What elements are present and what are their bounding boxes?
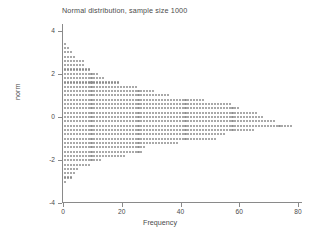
data-dot	[132, 103, 134, 105]
y-tick-label: 0	[39, 113, 55, 120]
data-dot	[117, 142, 119, 144]
data-dot	[196, 116, 198, 118]
data-dot	[267, 120, 269, 122]
data-dot	[158, 138, 160, 140]
data-dot	[149, 103, 151, 105]
data-dot	[76, 68, 78, 70]
data-dot	[205, 125, 207, 127]
data-dot	[114, 112, 116, 114]
data-dot	[132, 146, 134, 148]
data-dot	[64, 73, 66, 75]
data-dot	[111, 142, 113, 144]
data-dot	[114, 90, 116, 92]
data-dot	[82, 90, 84, 92]
data-dot	[123, 99, 125, 101]
data-dot	[85, 86, 87, 88]
data-dot	[120, 99, 122, 101]
data-dot	[220, 116, 222, 118]
data-dot	[102, 86, 104, 88]
data-dot	[76, 77, 78, 79]
data-dot	[231, 107, 233, 109]
data-dot	[149, 138, 151, 140]
data-dot	[70, 159, 72, 161]
data-dot	[64, 125, 66, 127]
data-dot	[67, 90, 69, 92]
data-dot	[111, 125, 113, 127]
data-dot	[211, 138, 213, 140]
data-dot	[176, 138, 178, 140]
data-dot	[90, 107, 92, 109]
data-dot	[82, 94, 84, 96]
data-dot	[211, 129, 213, 131]
data-dot	[143, 116, 145, 118]
data-dot	[120, 86, 122, 88]
data-dot	[161, 138, 163, 140]
data-dot	[111, 155, 113, 157]
data-dot	[73, 125, 75, 127]
data-dot	[170, 103, 172, 105]
data-dot	[79, 125, 81, 127]
data-dot	[190, 133, 192, 135]
data-dot	[164, 129, 166, 131]
data-dot	[158, 129, 160, 131]
data-dot	[111, 138, 113, 140]
data-dot	[82, 116, 84, 118]
data-dot	[114, 107, 116, 109]
y-tick-label: 4	[39, 27, 55, 34]
data-dot	[67, 68, 69, 70]
data-dot	[88, 107, 90, 109]
data-dot	[73, 99, 75, 101]
data-dot	[164, 120, 166, 122]
data-dot	[117, 146, 119, 148]
data-dot	[88, 112, 90, 114]
data-dot	[214, 129, 216, 131]
data-dot	[85, 120, 87, 122]
data-dot	[231, 129, 233, 131]
data-dot	[199, 99, 201, 101]
data-dot	[88, 77, 90, 79]
data-dot	[76, 116, 78, 118]
data-dot	[102, 129, 104, 131]
data-dot	[117, 151, 119, 153]
data-dot	[161, 99, 163, 101]
data-dot	[155, 99, 157, 101]
data-dot	[199, 112, 201, 114]
data-dot	[246, 112, 248, 114]
data-dot	[132, 116, 134, 118]
data-dot	[161, 116, 163, 118]
data-dot	[64, 146, 66, 148]
data-dot	[252, 116, 254, 118]
data-dot	[102, 151, 104, 153]
data-dot	[155, 138, 157, 140]
data-dot	[179, 116, 181, 118]
data-dot	[123, 146, 125, 148]
data-dot	[99, 142, 101, 144]
data-dot	[229, 116, 231, 118]
data-dot	[76, 159, 78, 161]
data-dot	[137, 133, 139, 135]
data-dot	[79, 164, 81, 166]
data-dot	[108, 133, 110, 135]
data-dot	[135, 138, 137, 140]
data-dot	[217, 125, 219, 127]
data-dot	[105, 146, 107, 148]
data-dot	[173, 125, 175, 127]
data-dot	[179, 107, 181, 109]
data-dot	[173, 99, 175, 101]
data-dot	[96, 73, 98, 75]
data-dot	[93, 155, 95, 157]
data-dot	[105, 86, 107, 88]
data-dot	[217, 107, 219, 109]
data-dot	[85, 99, 87, 101]
data-dot	[93, 142, 95, 144]
data-dot	[90, 86, 92, 88]
data-dot	[105, 103, 107, 105]
data-dot	[202, 103, 204, 105]
data-dot	[193, 138, 195, 140]
data-dot	[102, 155, 104, 157]
data-dot	[182, 112, 184, 114]
y-tick-label: 2	[39, 70, 55, 77]
data-dot	[143, 99, 145, 101]
data-dot	[217, 129, 219, 131]
data-dot	[255, 112, 257, 114]
